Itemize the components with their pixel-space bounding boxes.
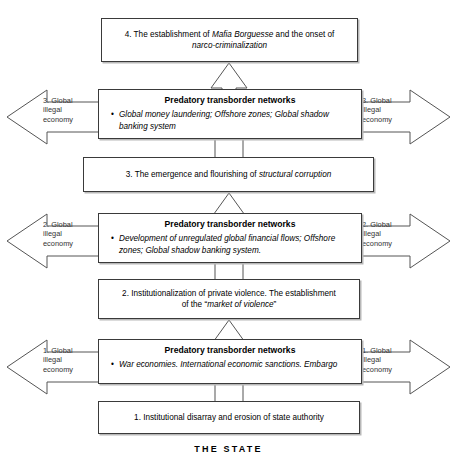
arrow-up-icon	[206, 62, 252, 90]
stage-box-3: 3. The emergence and flourishing of stru…	[83, 157, 374, 192]
network-box-2: Predatory transborder networks Developme…	[98, 213, 362, 263]
diagram-canvas: 4. The establishment of Mafia Borguesse …	[0, 0, 457, 467]
stage-3-line1-a: 3. The emergence and flourishing of	[126, 170, 259, 179]
stage-box-4: 4. The establishment of Mafia Borguesse …	[101, 18, 358, 62]
right-arrow-3-line1: 3. Global	[362, 96, 392, 105]
left-arrow-1-line2: illegal	[43, 355, 73, 364]
stage-box-2: 2. Institutionalization of private viole…	[98, 279, 360, 319]
network-box-1: Predatory transborder networks War econo…	[98, 339, 362, 384]
stage-3-line1-emphasis: structural corruption	[259, 170, 331, 179]
right-arrow-2-line1: 2. Global	[362, 220, 392, 229]
right-arrow-3-line3: economy	[362, 115, 392, 124]
left-arrow-label-1: 1. Global illegal economy	[43, 346, 73, 374]
right-arrow-1-line3: economy	[362, 365, 392, 374]
stage-4-line1-a: 4. The establishment of	[125, 30, 212, 39]
stage-2-line1-a: 2. Institutionalization of private viole…	[122, 289, 336, 298]
right-arrow-label-1: 1. Global illegal economy	[362, 346, 392, 374]
right-arrow-label-3: 3. Global illegal economy	[362, 96, 392, 124]
left-arrow-3-line3: economy	[43, 115, 73, 124]
left-arrow-2-line2: illegal	[43, 229, 73, 238]
network-1-title: Predatory transborder networks	[99, 345, 361, 356]
stage-4-line1-b: and the onset of	[273, 30, 334, 39]
stage-2-text: 2. Institutionalization of private viole…	[112, 288, 346, 311]
left-arrow-1-line3: economy	[43, 365, 73, 374]
the-state-label: THE STATE	[0, 444, 457, 454]
network-3-title: Predatory transborder networks	[99, 95, 361, 106]
stage-4-line1-emphasis: Mafia Borguesse	[212, 30, 273, 39]
stage-2-line2-b: ”	[274, 300, 277, 309]
right-arrow-2-line2: illegal	[362, 229, 392, 238]
stage-3-text: 3. The emergence and flourishing of stru…	[116, 169, 342, 181]
network-box-3: Predatory transborder networks Global mo…	[98, 89, 362, 139]
network-3-bullet: Global money laundering; Offshore zones;…	[111, 109, 351, 132]
left-arrow-label-3: 3. Global illegal economy	[43, 96, 73, 124]
left-arrow-2-line3: economy	[43, 239, 73, 248]
right-arrow-3-line2: illegal	[362, 105, 392, 114]
stage-4-text: 4. The establishment of Mafia Borguesse …	[115, 29, 345, 52]
left-arrow-3-line2: illegal	[43, 105, 73, 114]
network-2-bullet: Development of unregulated global financ…	[111, 233, 351, 256]
connector-up-network3-to-stage4	[206, 62, 252, 90]
left-arrow-1-line1: 1. Global	[43, 346, 73, 355]
right-arrow-1-line2: illegal	[362, 355, 392, 364]
stage-2-line2-emphasis: market of violence	[207, 300, 273, 309]
right-arrow-label-2: 2. Global illegal economy	[362, 220, 392, 248]
stage-2-line2-a: of the “	[182, 300, 208, 309]
left-arrow-3-line1: 3. Global	[43, 96, 73, 105]
stage-1-text: 1. Institutional disarray and erosion of…	[124, 412, 334, 424]
stage-box-1: 1. Institutional disarray and erosion of…	[98, 401, 360, 434]
right-arrow-2-line3: economy	[362, 239, 392, 248]
left-arrow-label-2: 2. Global illegal economy	[43, 220, 73, 248]
network-2-title: Predatory transborder networks	[99, 219, 361, 230]
right-arrow-1-line1: 1. Global	[362, 346, 392, 355]
network-1-bullet: War economies. International economic sa…	[111, 359, 351, 371]
left-arrow-2-line1: 2. Global	[43, 220, 73, 229]
stage-4-line2-emphasis: narco-criminalization	[192, 41, 267, 50]
stage-1-line1-a: 1. Institutional disarray and erosion of…	[134, 413, 324, 422]
